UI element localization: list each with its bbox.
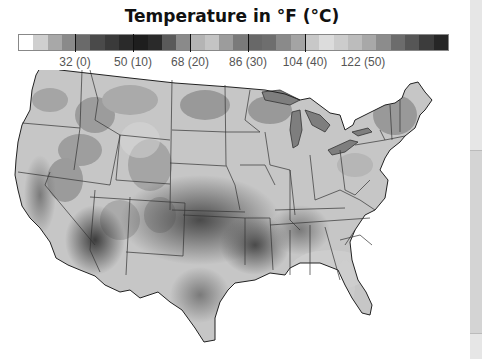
legend-swatch bbox=[162, 35, 176, 50]
legend-swatch bbox=[90, 35, 104, 50]
scrollbar-thumb[interactable] bbox=[470, 150, 482, 334]
legend-swatch bbox=[205, 35, 219, 50]
legend-swatch bbox=[19, 35, 33, 50]
legend-swatch bbox=[248, 35, 262, 50]
legend-swatch bbox=[291, 35, 305, 50]
legend-swatch bbox=[276, 35, 290, 50]
legend-tick-label: 50 (10) bbox=[114, 55, 152, 69]
legend-tick bbox=[305, 34, 306, 52]
legend-swatch bbox=[119, 35, 133, 50]
legend-swatch bbox=[48, 35, 62, 50]
legend-swatch bbox=[176, 35, 190, 50]
legend-swatch bbox=[334, 35, 348, 50]
legend-swatch bbox=[348, 35, 362, 50]
legend-tick-label: 86 (30) bbox=[229, 55, 267, 69]
legend-swatch bbox=[33, 35, 47, 50]
legend-tick bbox=[75, 34, 76, 52]
legend-tick-label: 104 (40) bbox=[283, 55, 328, 69]
legend-tick-label: 32 (0) bbox=[59, 55, 90, 69]
legend-swatch bbox=[391, 35, 405, 50]
map-title: Temperature in °F (°C) bbox=[0, 6, 464, 26]
legend-swatch bbox=[305, 35, 319, 50]
scrollbar-track[interactable] bbox=[470, 0, 482, 359]
legend-tick bbox=[248, 34, 249, 52]
legend-tick bbox=[133, 34, 134, 52]
color-legend-bar bbox=[18, 34, 449, 51]
legend-tick-label: 122 (50) bbox=[341, 55, 386, 69]
legend-swatch bbox=[362, 35, 376, 50]
legend-swatch bbox=[419, 35, 433, 50]
legend-tick bbox=[190, 34, 191, 52]
legend-swatch bbox=[105, 35, 119, 50]
legend-swatch bbox=[262, 35, 276, 50]
legend-swatch bbox=[405, 35, 419, 50]
legend-swatch bbox=[376, 35, 390, 50]
legend-tick-label: 68 (20) bbox=[171, 55, 209, 69]
us-temperature-map bbox=[0, 70, 470, 359]
legend-swatch bbox=[191, 35, 205, 50]
legend-swatch bbox=[233, 35, 247, 50]
legend-swatch bbox=[319, 35, 333, 50]
legend-swatch bbox=[76, 35, 90, 50]
legend-swatch bbox=[219, 35, 233, 50]
legend-swatch bbox=[434, 35, 448, 50]
legend-swatch bbox=[133, 35, 147, 50]
legend-swatch bbox=[148, 35, 162, 50]
